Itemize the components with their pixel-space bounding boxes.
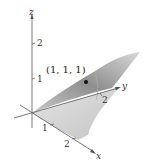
y-tick-label-2: 2 bbox=[102, 96, 108, 105]
z-tick-label-1: 1 bbox=[37, 75, 43, 84]
z-tick-label-2: 2 bbox=[37, 39, 43, 48]
x-axis-label: x bbox=[96, 152, 101, 161]
z-axis-label: z bbox=[29, 8, 34, 17]
z-tick-1 bbox=[32, 78, 35, 79]
y-axis-label: y bbox=[122, 82, 127, 91]
x-tick-label-2: 2 bbox=[64, 140, 70, 149]
point-marker bbox=[84, 80, 88, 84]
z-tick-2 bbox=[32, 43, 35, 44]
point-label: (1, 1, 1) bbox=[46, 65, 86, 75]
y-axis-arrow-icon bbox=[115, 87, 121, 91]
x-tick-label-1: 1 bbox=[42, 124, 48, 133]
